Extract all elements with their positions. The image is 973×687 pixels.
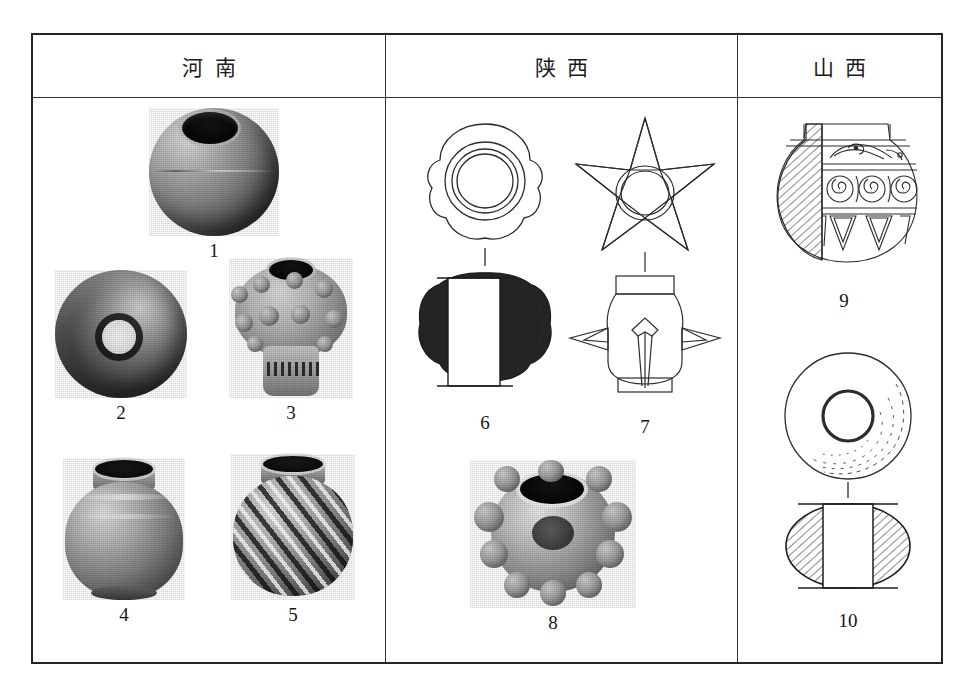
vessel-mouth-opening <box>182 112 238 144</box>
figure-10-number: 10 <box>839 611 858 630</box>
volute-spiral <box>832 179 846 193</box>
knob-icon <box>231 286 248 303</box>
figure-1-number: 1 <box>209 241 219 260</box>
knob-icon <box>602 502 632 532</box>
figure-7: 7 <box>564 100 726 436</box>
spiral-fluting <box>233 476 353 596</box>
column-header-cell-shanxi: 山西 <box>738 35 941 97</box>
figure-3: 3 <box>229 258 353 422</box>
central-perforation <box>102 320 136 354</box>
pendant-triangle <box>830 216 856 250</box>
knob-icon <box>291 305 310 324</box>
figure-4-number: 4 <box>119 605 129 624</box>
zoomorph-eye <box>854 146 858 150</box>
spike-fold-line <box>630 118 645 170</box>
figure-5: 5 <box>231 454 355 624</box>
spike-fold-line <box>645 118 660 170</box>
figure-2: 2 <box>55 270 187 422</box>
knob-icon <box>480 540 508 568</box>
jar-foot <box>91 586 157 600</box>
figure-7-drawing <box>564 100 726 412</box>
column-cell-shanxi: 9 <box>738 98 941 662</box>
figure-7-number: 7 <box>640 417 650 436</box>
knob-icon <box>235 314 253 332</box>
knob-icon <box>315 280 333 298</box>
spike-facet-line <box>584 328 608 342</box>
figure-1: 1 <box>149 108 279 260</box>
knob-icon <box>596 540 624 568</box>
spike-fold-line <box>645 218 688 250</box>
inked-catalog-mark <box>267 362 319 376</box>
figure-8-photo <box>470 460 636 608</box>
figure-group-henan: 1 2 <box>33 98 385 662</box>
elevation-collar <box>616 276 674 294</box>
knob-icon <box>540 580 566 606</box>
figure-2-photo <box>55 270 187 398</box>
pendant-triangle <box>866 216 892 250</box>
column-header-label-shaanxi: 陕西 <box>386 35 737 97</box>
knob-icon <box>538 460 564 482</box>
spike-facet-line <box>682 328 706 342</box>
knob-icon <box>504 572 530 598</box>
shoulder-ridge <box>69 494 179 500</box>
column-cell-henan: 1 2 <box>33 98 385 662</box>
section-bore-channel <box>823 504 873 588</box>
figure-5-photo <box>231 454 355 600</box>
jar-rim-opening <box>263 456 323 472</box>
plan-outer-ring <box>616 166 674 220</box>
column-header-cell-shaanxi: 陕西 <box>385 35 738 97</box>
artifact-plate-table: 河南 陕西 山西 1 <box>31 33 943 664</box>
disc-perforation <box>823 391 873 441</box>
volute-spiral <box>864 179 878 193</box>
knob-icon <box>586 466 612 492</box>
volute-divider <box>856 176 858 202</box>
figure-1-photo <box>149 108 279 236</box>
plan-inner-ring <box>621 171 669 215</box>
figure-group-shaanxi: 6 <box>386 98 737 662</box>
column-cell-shaanxi: 6 <box>385 98 738 662</box>
figure-6: 6 <box>410 108 560 432</box>
section-hatching <box>778 124 822 260</box>
figure-6-drawing <box>410 108 560 408</box>
column-header-label-shanxi: 山西 <box>738 35 941 97</box>
figure-10: 10 <box>768 348 928 630</box>
disc-outline <box>785 353 911 479</box>
knob-icon <box>532 516 574 550</box>
equator-highlight <box>154 170 274 172</box>
knob-icon <box>259 306 279 326</box>
jar-body-twisted <box>233 476 353 596</box>
spike-fold-line <box>671 164 714 198</box>
knob-icon <box>474 502 504 532</box>
spike-fold-line <box>576 164 630 170</box>
figure-4-photo <box>63 458 185 600</box>
figure-3-number: 3 <box>286 403 296 422</box>
figure-4: 4 <box>63 458 185 624</box>
table-body-row: 1 2 <box>33 98 941 662</box>
spike-fold-line <box>671 198 688 250</box>
figure-group-shanxi: 9 <box>738 98 941 662</box>
figure-6-svg <box>410 108 560 408</box>
knob-icon <box>286 272 303 289</box>
volute-spiral <box>896 179 910 193</box>
spike-fold-line <box>602 218 645 250</box>
spike-fold-line <box>602 198 619 250</box>
column-header-cell-henan: 河南 <box>33 35 385 97</box>
figure-8-number: 8 <box>548 613 558 632</box>
plan-inner-ring <box>457 154 513 208</box>
figure-3-photo <box>229 258 353 398</box>
column-header-label-henan: 河南 <box>33 35 385 97</box>
figure-5-number: 5 <box>288 605 298 624</box>
star-outline <box>576 118 714 250</box>
knob-icon <box>247 336 263 352</box>
jar-rim-opening <box>95 460 153 478</box>
pendant-triangle-inner <box>870 218 888 242</box>
figure-9-drawing <box>760 110 928 286</box>
figure-7-svg <box>564 100 726 412</box>
knob-icon <box>494 466 520 492</box>
table-header-row: 河南 陕西 山西 <box>33 35 941 98</box>
spike-fold-line <box>660 164 714 170</box>
pendant-triangle-inner <box>834 218 852 242</box>
knob-icon <box>325 310 343 328</box>
knob-icon <box>317 336 333 352</box>
figure-10-svg <box>768 348 928 606</box>
